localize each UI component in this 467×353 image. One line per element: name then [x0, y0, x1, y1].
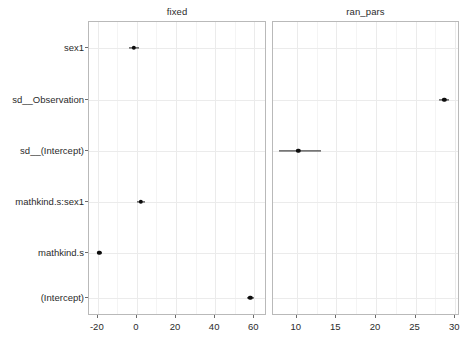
y-axis-tick-label: sd__(Intercept)	[20, 145, 84, 156]
facet-panel-ran-pars	[272, 21, 459, 315]
x-axis-tick-label: 20	[370, 321, 381, 332]
major-gridline-x	[376, 22, 377, 314]
x-axis-tick-label: 60	[248, 321, 259, 332]
major-gridline-y	[273, 48, 458, 49]
minor-gridline-x	[356, 22, 357, 314]
x-axis-tick-label: 20	[170, 321, 181, 332]
y-axis-tick-label: sd__Observation	[12, 94, 84, 105]
major-gridline-x	[176, 22, 177, 314]
x-axis-tick	[335, 315, 336, 318]
estimate-point	[97, 251, 101, 255]
x-axis-tick-label: 0	[133, 321, 138, 332]
x-axis-tick	[97, 315, 98, 318]
minor-gridline-x	[196, 22, 197, 314]
major-gridline-y	[273, 253, 458, 254]
minor-gridline-x	[117, 22, 118, 314]
x-axis-tick	[454, 315, 455, 318]
major-gridline-y	[89, 151, 265, 152]
y-axis-tick-label: mathkind.s:sex1	[15, 196, 84, 207]
major-gridline-y	[273, 100, 458, 101]
x-axis-tick	[214, 315, 215, 318]
x-axis-tick-label: 10	[290, 321, 301, 332]
facet-panel-fixed	[88, 21, 266, 315]
minor-gridline-x	[317, 22, 318, 314]
major-gridline-y	[273, 202, 458, 203]
major-gridline-y	[89, 253, 265, 254]
major-gridline-x	[455, 22, 456, 314]
minor-gridline-x	[396, 22, 397, 314]
x-axis-tick	[296, 315, 297, 318]
minor-gridline-x	[156, 22, 157, 314]
x-axis-tick-label: 15	[330, 321, 341, 332]
major-gridline-y	[89, 298, 265, 299]
x-axis-tick	[136, 315, 137, 318]
minor-gridline-x	[235, 22, 236, 314]
x-axis-tick-label: -20	[90, 321, 104, 332]
y-axis-tick-label: mathkind.s	[38, 247, 84, 258]
major-gridline-x	[137, 22, 138, 314]
estimate-point	[132, 46, 136, 50]
major-gridline-y	[273, 298, 458, 299]
facet-strip-label-ran-pars: ran_pars	[272, 6, 459, 17]
major-gridline-x	[215, 22, 216, 314]
x-axis-tick	[415, 315, 416, 318]
x-axis-tick-label: 40	[209, 321, 220, 332]
coefficient-plot-figure: fixed ran_pars sex1sd__Observationsd__(I…	[0, 0, 467, 353]
major-gridline-y	[89, 48, 265, 49]
y-axis-tick-label: sex1	[64, 42, 84, 53]
major-gridline-x	[297, 22, 298, 314]
major-gridline-x	[254, 22, 255, 314]
estimate-point	[442, 98, 446, 102]
y-axis-tick-label: (Intercept)	[41, 292, 84, 303]
estimate-point	[296, 149, 300, 153]
facet-strip-label-fixed: fixed	[88, 6, 266, 17]
x-axis-tick-label: 30	[449, 321, 460, 332]
estimate-point	[248, 296, 252, 300]
x-axis-tick	[375, 315, 376, 318]
major-gridline-y	[89, 100, 265, 101]
minor-gridline-x	[435, 22, 436, 314]
major-gridline-y	[89, 202, 265, 203]
major-gridline-x	[416, 22, 417, 314]
major-gridline-x	[98, 22, 99, 314]
x-axis-tick-label: 25	[409, 321, 420, 332]
x-axis-tick	[253, 315, 254, 318]
x-axis-tick	[175, 315, 176, 318]
major-gridline-x	[336, 22, 337, 314]
estimate-point	[138, 200, 142, 204]
